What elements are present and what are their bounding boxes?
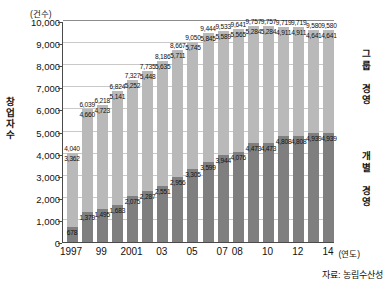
y-tick-label-1000: 1,000 — [16, 215, 60, 226]
bar-segment-group-2011 — [278, 27, 289, 136]
legend-group-char-4: 경 — [360, 83, 373, 95]
x-tick-label-08: 08 — [232, 246, 243, 257]
y-tick-mark-6000 — [58, 110, 62, 111]
legend-group-char-2: 룹 — [360, 60, 373, 72]
bar-individual-label-2003: 2,551 — [155, 188, 171, 195]
y-tick-mark-3000 — [58, 177, 62, 178]
bar-2004: 8,6675,7112,956 — [172, 50, 183, 242]
bar-group-label-2002: 5,448 — [140, 73, 156, 80]
source-note: 자료: 농림수산성 — [322, 268, 383, 281]
bar-segment-group-2012 — [293, 27, 304, 136]
bar-total-label-2000: 6,824 — [110, 83, 126, 90]
bar-2010: 9,7575,2844,473 — [263, 26, 274, 242]
bar-individual-label-2006: 3,599 — [200, 164, 216, 171]
x-tick-label-07: 07 — [217, 246, 228, 257]
bar-total-label-2006: 9,444 — [200, 25, 216, 32]
legend-individual-char-2: 별 — [360, 162, 373, 174]
bar-segment-group-2014 — [323, 30, 334, 133]
bar-individual-label-2004: 2,956 — [170, 179, 186, 186]
bar-group-label-2010: 5,284 — [261, 28, 277, 35]
bar-total-label-1997: 4,040 — [64, 145, 80, 152]
bar-segment-group-2005 — [187, 42, 198, 169]
bar-segment-individual-2008 — [233, 152, 244, 242]
bar-total-label-2002: 7,735 — [140, 63, 156, 70]
bar-total-label-2001: 7,327 — [125, 72, 141, 79]
bar-1999: 6,2184,7231,495 — [97, 105, 108, 242]
bar-individual-label-1998: 1,379 — [79, 214, 95, 221]
bar-group-label-2008: 5,565 — [231, 31, 247, 38]
bar-2006: 9,4445,8453,599 — [203, 33, 214, 242]
bar-total-label-2014: 9,580 — [321, 22, 337, 29]
bar-group-label-2011: 4,911 — [276, 29, 291, 36]
bar-individual-label-1999: 1,495 — [95, 211, 111, 218]
legend-individual-char-3 — [360, 173, 373, 185]
legend-item-individual-management: 개 별 경 영 — [360, 150, 373, 208]
bar-2008: 9,6415,5654,076 — [233, 29, 244, 242]
bar-segment-individual-2013 — [308, 133, 319, 242]
bar-total-label-1999: 6,218 — [95, 97, 111, 104]
bar-2002: 7,7355,4482,287 — [142, 71, 153, 242]
bar-group-label-2001: 5,252 — [125, 82, 141, 89]
bar-segment-group-2003 — [157, 61, 168, 186]
y-tick-label-0: 0 — [16, 238, 60, 249]
bar-segment-group-2010 — [263, 26, 274, 143]
legend-item-group-management: 그 룹 경 영 — [360, 48, 373, 106]
bar-individual-label-2011: 4,808 — [276, 138, 292, 145]
y-tick-label-8000: 8,000 — [16, 61, 60, 72]
bars-layer: 4,0403,3626786,0394,6601,3796,2184,7231,… — [63, 22, 334, 242]
x-tick-label-1997: 1997 — [60, 246, 82, 257]
bar-individual-label-2013: 4,939 — [306, 135, 322, 142]
bar-group-label-2006: 5,845 — [200, 35, 216, 42]
bar-total-label-1998: 6,039 — [79, 101, 95, 108]
bar-segment-group-2007 — [218, 31, 229, 155]
y-tick-mark-0 — [58, 243, 62, 244]
y-tick-label-5000: 5,000 — [16, 127, 60, 138]
bar-individual-label-2012: 4,808 — [291, 138, 307, 145]
bar-group-label-2013: 4,641 — [306, 32, 322, 39]
legend-individual-char-4: 경 — [360, 185, 373, 197]
bar-group-label-1997: 3,362 — [64, 155, 80, 162]
legend-group-char-3 — [360, 71, 373, 83]
bar-segment-group-2001 — [127, 80, 138, 196]
legend-group-char-5: 영 — [360, 94, 373, 106]
bar-segment-individual-2006 — [203, 162, 214, 242]
bar-2001: 7,3275,2522,075 — [127, 80, 138, 242]
y-tick-label-3000: 3,000 — [16, 171, 60, 182]
bar-individual-label-2008: 4,076 — [231, 154, 247, 161]
bar-individual-label-2014: 4,939 — [321, 135, 337, 142]
x-tick-label-05: 05 — [186, 246, 197, 257]
legend-group-char-1: 그 — [360, 48, 373, 60]
x-tick-label-12: 12 — [292, 246, 303, 257]
y-tick-mark-7000 — [58, 88, 62, 89]
bar-segment-individual-2007 — [218, 155, 229, 242]
bar-individual-label-1997: 678 — [67, 229, 77, 236]
bar-2013: 9,5804,6414,939 — [308, 30, 319, 242]
bar-total-label-2009: 9,757 — [246, 18, 262, 25]
bar-total-label-2010: 9,757 — [261, 18, 277, 25]
bar-individual-label-2002: 2,287 — [140, 193, 156, 200]
bar-individual-label-2005: 3,305 — [185, 171, 201, 178]
bar-total-label-2007: 9,533 — [215, 23, 231, 30]
x-tick-label-2001: 2001 — [120, 246, 142, 257]
legend-individual-char-5: 영 — [360, 196, 373, 208]
bar-group-label-2009: 5,284 — [246, 28, 262, 35]
bar-individual-label-2007: 3,944 — [215, 157, 231, 164]
bar-group-label-2004: 5,711 — [170, 52, 185, 59]
bar-1997: 4,0403,362678 — [67, 153, 78, 242]
bar-segment-individual-2009 — [248, 143, 259, 242]
bar-total-label-2008: 9,641 — [231, 21, 247, 28]
bar-total-label-2013: 9,580 — [306, 22, 322, 29]
y-tick-label-10000: 10,000 — [16, 17, 60, 28]
bar-segment-group-2008 — [233, 29, 244, 152]
bar-individual-label-2000: 1,683 — [110, 207, 126, 214]
bar-segment-group-2004 — [172, 50, 183, 176]
bar-2000: 6,8245,1411,683 — [112, 91, 123, 242]
x-axis-unit-label: (연도) — [338, 247, 360, 259]
bar-total-label-2004: 8,667 — [170, 42, 186, 49]
bar-individual-label-2009: 4,473 — [246, 145, 262, 152]
bar-segment-individual-2014 — [323, 133, 334, 242]
bar-group-label-2005: 5,745 — [185, 44, 201, 51]
bar-2005: 9,0505,7453,305 — [187, 42, 198, 242]
bar-segment-group-2002 — [142, 71, 153, 191]
bar-segment-individual-2011 — [278, 136, 289, 242]
